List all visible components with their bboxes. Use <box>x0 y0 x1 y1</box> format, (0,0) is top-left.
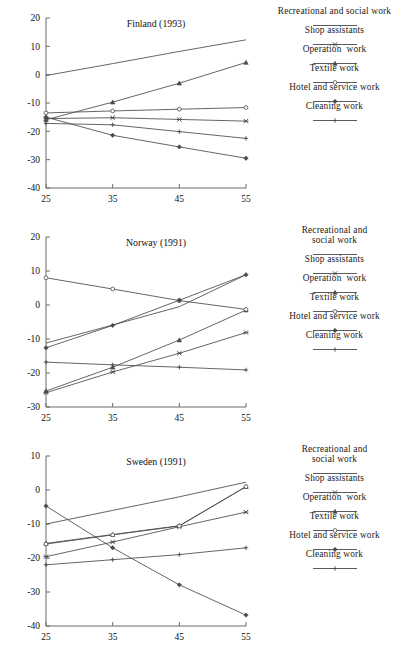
y-axis-tick-label: -20 <box>27 553 40 563</box>
legend-label: Hotel and service work <box>258 530 411 540</box>
legend-label: Shop assistants <box>258 473 411 483</box>
y-axis-tick-label: -30 <box>27 155 40 165</box>
y-axis-tick-label: -40 <box>27 183 40 193</box>
x-axis-tick-label: 55 <box>241 194 251 204</box>
data-point-marker-circle <box>244 106 248 110</box>
y-axis-tick-label: -10 <box>27 519 40 529</box>
legend-label: Shop assistants <box>258 25 411 35</box>
y-axis-tick-label: 10 <box>31 451 41 461</box>
legend-line-sample <box>258 321 411 330</box>
legend-sample-plus <box>309 345 361 354</box>
data-point-marker-circle <box>244 308 248 312</box>
y-axis-tick-label: -10 <box>27 334 40 344</box>
legend-line-sample <box>258 54 411 63</box>
legend-line-sample <box>258 540 411 549</box>
chart-panel-sweden: 100-10-20-30-4025354555Sweden (1991) Rec… <box>0 438 411 657</box>
plot-area-sweden: 100-10-20-30-4025354555Sweden (1991) <box>0 438 258 657</box>
y-axis-tick-label: 20 <box>31 232 41 242</box>
plot-area-finland: 20100-10-20-30-4025354555Finland (1993) <box>0 0 258 219</box>
legend-entry: Hotel and service work <box>258 311 411 330</box>
x-axis-tick-label: 55 <box>241 413 251 423</box>
data-point-marker-circle <box>177 107 181 111</box>
chart-panel-finland: 20100-10-20-30-4025354555Finland (1993) … <box>0 0 411 219</box>
y-axis-tick-label: 0 <box>35 70 40 80</box>
x-axis-tick-label: 45 <box>175 194 185 204</box>
data-point-marker-circle <box>44 542 48 546</box>
y-axis-tick-label: -30 <box>27 402 40 412</box>
legend-label: Hotel and service work <box>258 311 411 321</box>
legend-entry: Shop assistants <box>258 254 411 273</box>
legend-label: Recreational and social work <box>258 225 411 245</box>
legend-label: Cleaning work <box>258 330 411 340</box>
legend-entry: Operation work <box>258 44 411 63</box>
legend-line-sample <box>258 35 411 44</box>
legend-label: Operation work <box>258 273 411 283</box>
legend-line-sample <box>258 521 411 530</box>
legend-line-sample <box>258 73 411 82</box>
legend-label: Textile work <box>258 63 411 73</box>
data-point-marker-circle <box>244 485 248 489</box>
legend-entry: Shop assistants <box>258 473 411 492</box>
data-point-marker-circle <box>111 109 115 113</box>
legend-line-sample <box>258 559 411 568</box>
x-axis-tick-label: 35 <box>108 413 118 423</box>
y-axis-tick-label: 0 <box>35 485 40 495</box>
y-axis-tick-label: -20 <box>27 127 40 137</box>
line-chart-norway: 20100-10-20-3025354555Norway (1991) <box>0 219 258 438</box>
chart-title: Sweden (1991) <box>126 456 186 468</box>
chart-panel-norway: 20100-10-20-3025354555Norway (1991) Recr… <box>0 219 411 438</box>
legend-entry: Textile work <box>258 511 411 530</box>
legend-entry: Cleaning work <box>258 330 411 349</box>
line-chart-finland: 20100-10-20-30-4025354555Finland (1993) <box>0 0 258 219</box>
legend-line-sample <box>258 340 411 349</box>
legend-line-sample <box>258 111 411 120</box>
legend-entry: Recreational and social work <box>258 225 411 254</box>
data-point-marker-plus <box>332 118 336 122</box>
legend-line-sample <box>258 302 411 311</box>
y-axis-tick-label: -20 <box>27 368 40 378</box>
legend-norway: Recreational and social workShop assista… <box>258 219 411 438</box>
legend-entry: Cleaning work <box>258 101 411 120</box>
legend-line-sample <box>258 464 411 473</box>
data-point-marker-plus <box>332 348 336 352</box>
x-axis-tick-label: 25 <box>41 194 51 204</box>
legend-finland: Recreational and social workShop assista… <box>258 0 411 219</box>
legend-entry: Hotel and service work <box>258 530 411 549</box>
x-axis-tick-label: 35 <box>108 632 118 642</box>
legend-label: Operation work <box>258 492 411 502</box>
y-axis-tick-label: 0 <box>35 300 40 310</box>
x-axis-tick-label: 25 <box>41 632 51 642</box>
legend-entry: Cleaning work <box>258 549 411 568</box>
plot-area-norway: 20100-10-20-3025354555Norway (1991) <box>0 219 258 438</box>
legend-sweden: Recreational and social workShop assista… <box>258 438 411 657</box>
legend-label: Shop assistants <box>258 254 411 264</box>
y-axis-tick-label: 10 <box>31 42 41 52</box>
legend-sample-plus <box>309 116 361 125</box>
legend-sample-plus <box>309 564 361 573</box>
legend-label: Operation work <box>258 44 411 54</box>
y-axis-tick-label: 20 <box>31 13 41 23</box>
legend-entry: Recreational and social work <box>258 444 411 473</box>
y-axis-tick-label: -40 <box>27 621 40 631</box>
data-point-marker-plus <box>332 567 336 571</box>
legend-line-sample <box>258 264 411 273</box>
legend-label: Recreational and social work <box>258 444 411 464</box>
line-chart-sweden: 100-10-20-30-4025354555Sweden (1991) <box>0 438 258 657</box>
y-axis-tick-label: -30 <box>27 587 40 597</box>
x-axis-tick-label: 45 <box>175 632 185 642</box>
legend-label: Recreational and social work <box>258 6 411 16</box>
legend-line-sample <box>258 92 411 101</box>
x-axis-tick-label: 45 <box>175 413 185 423</box>
legend-line-sample <box>258 245 411 254</box>
legend-line-sample <box>258 483 411 492</box>
legend-line-sample <box>258 16 411 25</box>
legend-entry: Operation work <box>258 492 411 511</box>
legend-entry: Shop assistants <box>258 25 411 44</box>
legend-entry: Operation work <box>258 273 411 292</box>
legend-line-sample <box>258 283 411 292</box>
x-axis-tick-label: 35 <box>108 194 118 204</box>
chart-title: Norway (1991) <box>126 237 186 249</box>
legend-entry: Hotel and service work <box>258 82 411 101</box>
data-point-marker-circle <box>111 287 115 291</box>
legend-entry: Textile work <box>258 292 411 311</box>
